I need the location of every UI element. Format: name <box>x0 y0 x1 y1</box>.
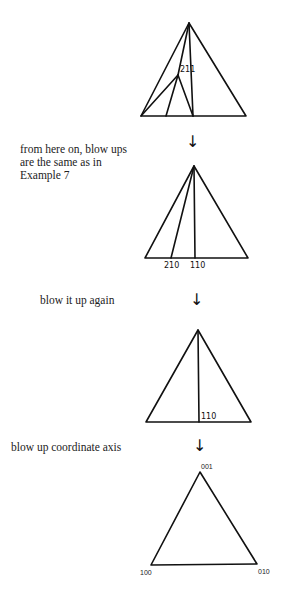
triangle-4-outline <box>151 472 257 565</box>
triangle-2-line-210 <box>171 166 194 258</box>
triangle-2-line-110 <box>194 166 195 258</box>
caption-blow-up-coordinate-axis: blow up coordinate axis <box>11 441 121 454</box>
label-211: 211 <box>180 65 195 74</box>
label-100: 100 <box>140 569 152 576</box>
label-210: 210 <box>164 261 179 270</box>
triangle-2: 210 110 <box>145 166 248 270</box>
triangle-2-outline <box>145 166 248 258</box>
label-110: 110 <box>201 412 216 421</box>
label-010: 010 <box>258 568 270 575</box>
down-arrow-icon: ↓ <box>186 134 199 150</box>
caption-blow-it-up-again: blow it up again <box>40 294 114 307</box>
label-001: 001 <box>201 463 213 470</box>
triangle-4: 001 100 010 <box>140 463 270 576</box>
triangle-3: 110 <box>146 330 251 422</box>
caption-from-here-on: from here on, blow ups are the same as i… <box>20 143 145 182</box>
label-110: 110 <box>190 261 205 270</box>
down-arrow-icon: ↓ <box>193 438 206 454</box>
down-arrow-icon: ↓ <box>190 292 203 308</box>
triangle-3-line-110 <box>198 330 199 422</box>
triangle-1: 211 <box>141 23 246 116</box>
